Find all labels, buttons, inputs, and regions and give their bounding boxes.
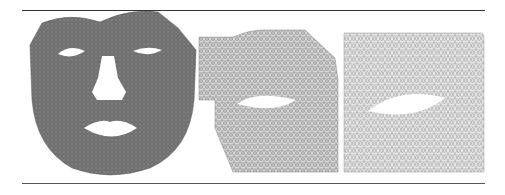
face-mesh — [30, 11, 196, 175]
mesh-figure — [0, 0, 505, 195]
lip-region-mesh — [199, 30, 338, 172]
square-mesh — [344, 33, 484, 172]
